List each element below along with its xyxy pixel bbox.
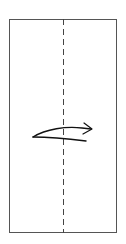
fold-diagram-root [0,0,126,244]
fold-diagram-canvas [0,0,126,244]
